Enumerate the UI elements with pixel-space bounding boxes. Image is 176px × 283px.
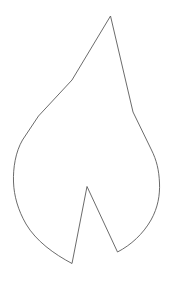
canvas-background	[0, 0, 176, 283]
drawing-canvas	[0, 0, 176, 283]
flame-outline-svg	[0, 0, 176, 283]
